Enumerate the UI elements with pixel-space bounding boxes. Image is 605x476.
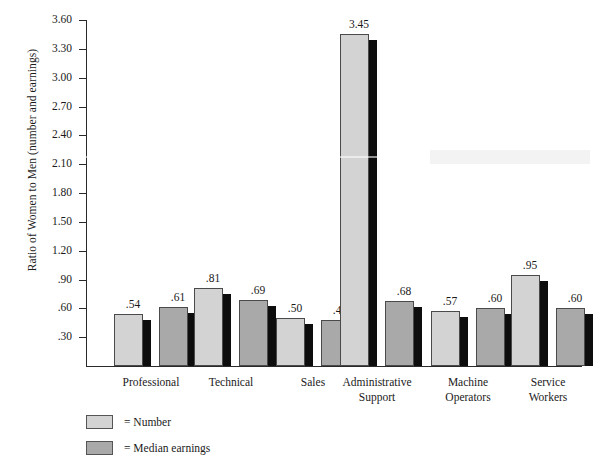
bar-value-label: .50 (272, 302, 318, 314)
bar-3d-side (460, 317, 468, 366)
y-tick-mark (79, 308, 86, 309)
bar-value-label: .57 (427, 295, 473, 307)
y-tick-mark (79, 135, 86, 136)
bar-value-label: .95 (507, 259, 553, 271)
y-tick-label: 1.50 (52, 214, 72, 229)
bar-group: .81.69 (194, 20, 276, 366)
y-tick: 1.20 (12, 251, 86, 252)
y-tick-label: .30 (58, 329, 72, 344)
bar-3d-side (305, 324, 313, 366)
bar-body (476, 308, 505, 366)
bar-3d-side (585, 314, 593, 366)
y-tick-mark (79, 49, 86, 50)
bar-3d-side (143, 320, 151, 366)
bar-median-earnings: .61 (159, 307, 196, 366)
y-tick: 3.30 (12, 49, 86, 50)
y-tick: 2.40 (12, 135, 86, 136)
y-axis-line (86, 20, 87, 367)
y-tick-mark (79, 193, 86, 194)
bar-value-label: .60 (552, 292, 598, 304)
y-tick-mark (79, 251, 86, 252)
legend-label-number: = Number (124, 412, 171, 432)
y-tick: 2.10 (12, 164, 86, 165)
y-tick-label: 3.00 (52, 70, 72, 85)
y-tick-mark (79, 107, 86, 108)
y-tick-mark (79, 280, 86, 281)
legend-label-median-earnings: = Median earnings (124, 438, 210, 458)
bar-body (340, 34, 369, 366)
y-tick: 2.70 (12, 107, 86, 108)
y-tick-label: 2.70 (52, 99, 72, 114)
y-tick-label: .60 (58, 300, 72, 315)
y-tick-label: 3.30 (52, 41, 72, 56)
bar-body (194, 288, 223, 366)
y-tick-label: 3.60 (52, 12, 72, 27)
y-tick: 3.00 (12, 78, 86, 79)
bar-median-earnings: .68 (385, 301, 422, 366)
bar-number: .54 (114, 314, 151, 366)
y-tick-mark (79, 222, 86, 223)
y-tick: 3.60 (12, 20, 86, 21)
category-label-service-workers: ServiceWorkers (483, 375, 605, 405)
y-tick-label: .90 (58, 272, 72, 287)
y-tick: .60 (12, 308, 86, 309)
bar-value-label: .69 (235, 284, 281, 296)
y-tick-mark (79, 78, 86, 79)
y-tick: .30 (12, 337, 86, 338)
bar-body (431, 311, 460, 366)
y-tick-label: 1.20 (52, 243, 72, 258)
bar-value-label: 3.45 (336, 18, 382, 30)
bar-body (159, 307, 188, 366)
bar-group: .95.60 (511, 20, 593, 366)
y-tick: 1.80 (12, 193, 86, 194)
bar-body (114, 314, 143, 366)
category-label-line2: Workers (483, 390, 605, 405)
y-tick-label: 2.10 (52, 156, 72, 171)
bar-3d-side (369, 40, 377, 366)
bar-number: .50 (276, 318, 313, 366)
bar-median-earnings: .60 (476, 308, 513, 366)
y-tick: 1.50 (12, 222, 86, 223)
bar-3d-side (223, 294, 231, 366)
bar-value-label: .68 (381, 285, 427, 297)
bar-number: .57 (431, 311, 468, 366)
bar-value-label: .81 (190, 272, 236, 284)
bar-3d-side (540, 281, 548, 366)
y-tick-label: 1.80 (52, 185, 72, 200)
bar-body (276, 318, 305, 366)
bar-group: 3.45.68 (340, 20, 422, 366)
bar-median-earnings: .60 (556, 308, 593, 366)
legend-swatch-median-earnings (86, 441, 113, 455)
bar-body (385, 301, 414, 366)
y-tick-mark (79, 20, 86, 21)
bar-group: .57.60 (431, 20, 513, 366)
plot-area: .30.60.901.201.501.802.102.402.703.003.3… (86, 20, 582, 367)
bar-group: .54.61 (114, 20, 196, 366)
bar-chart: Ratio of Women to Men (number and earnin… (0, 0, 605, 476)
bar-value-label: .54 (110, 298, 156, 310)
y-tick-mark (79, 164, 86, 165)
bar-number: 3.45 (340, 34, 377, 366)
bar-body (556, 308, 585, 366)
y-tick: .90 (12, 280, 86, 281)
bar-median-earnings: .69 (239, 300, 276, 366)
bar-3d-side (414, 307, 422, 366)
bar-body (511, 275, 540, 366)
bar-body (239, 300, 268, 366)
bar-3d-side (268, 306, 276, 366)
x-axis-line (86, 366, 582, 367)
y-tick-mark (79, 337, 86, 338)
y-tick-label: 2.40 (52, 127, 72, 142)
category-label-line1: Service (483, 375, 605, 390)
bar-number: .95 (511, 275, 548, 366)
legend-swatch-number (86, 415, 113, 429)
bar-number: .81 (194, 288, 231, 366)
